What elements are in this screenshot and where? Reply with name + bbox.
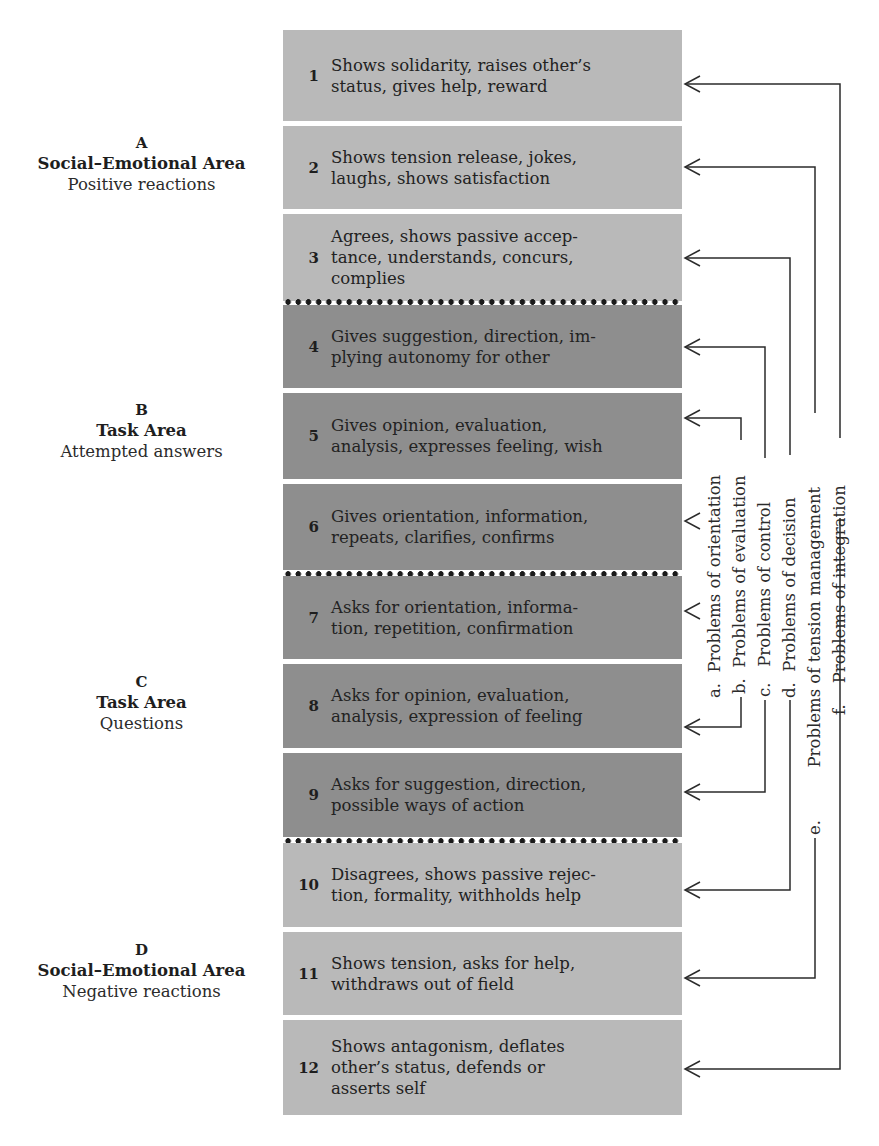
problem-text: Problems of orientation [705,475,724,673]
problem-text: Problems of tension management [805,487,824,768]
problem-key: e. [805,820,824,835]
problem-text: Problems of decision [780,497,799,671]
problem-text: Problems of evaluation [730,475,749,667]
problem-label-evaluation: b. Problems of evaluation [730,475,750,694]
problem-label-decision: d. Problems of decision [780,497,800,698]
bracket-tension [685,167,815,413]
problem-key: b. [730,678,749,694]
problem-label-orientation: a. Problems of orientation [705,475,725,698]
arrow-left-icon [685,603,700,619]
problem-key: c. [755,683,774,698]
bracket-evaluation [685,418,741,440]
problem-text: Problems of integration [830,485,849,683]
bracket-decision-lower [685,700,790,890]
bracket-decision [685,258,790,455]
bracket-control-lower [685,700,765,792]
bracket-integration [685,84,840,438]
problem-key: a. [705,683,724,698]
problem-key: d. [780,682,799,698]
arrowheads [685,76,700,1077]
problem-key: f. [830,704,849,715]
bracket-tension-lower [685,838,815,978]
problem-label-integration: f. Problems of integration [830,485,850,715]
problem-text: Problems of control [755,502,774,667]
bracket-control [685,347,765,458]
arrow-left-icon [685,513,700,529]
problem-label-control: c. Problems of control [755,502,775,697]
problem-label-tension-management: e. Problems of tension management [805,487,825,835]
